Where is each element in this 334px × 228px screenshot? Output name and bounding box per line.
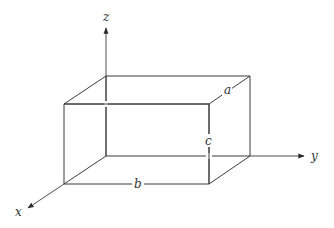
left-top-depth-edge: [64, 76, 106, 104]
axis-label-y: y: [310, 149, 318, 163]
right-bottom-depth-edge: [209, 156, 250, 184]
dimension-label-a: a: [224, 83, 231, 97]
dimension-label-b: b: [134, 177, 142, 191]
x-axis: [28, 184, 64, 208]
dimension-label-c: c: [205, 134, 212, 148]
left-bottom-depth-edge: [64, 156, 106, 184]
axis-label-x: x: [15, 205, 22, 219]
axis-label-z: z: [102, 10, 110, 24]
box-diagram: a c b z y x: [0, 0, 334, 228]
